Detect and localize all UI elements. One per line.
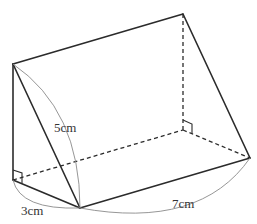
visible-edges: [13, 14, 250, 208]
triangular-prism-figure: 5cm 3cm 7cm: [0, 0, 257, 224]
label-hypotenuse: 5cm: [54, 120, 76, 135]
edge-back-slant: [183, 14, 250, 158]
hidden-edge-back-bottom-left: [13, 130, 183, 180]
label-base-long: 7cm: [172, 196, 194, 211]
right-angle-markers: [13, 120, 192, 183]
label-base-short: 3cm: [21, 203, 43, 218]
hidden-edge-back-bottom-right: [183, 130, 250, 158]
edge-bottom-long: [80, 158, 250, 208]
hidden-edges: [13, 14, 250, 180]
right-angle-mark-back: [183, 120, 192, 134]
edge-front-hypotenuse: [13, 64, 80, 208]
edge-top: [13, 14, 183, 64]
